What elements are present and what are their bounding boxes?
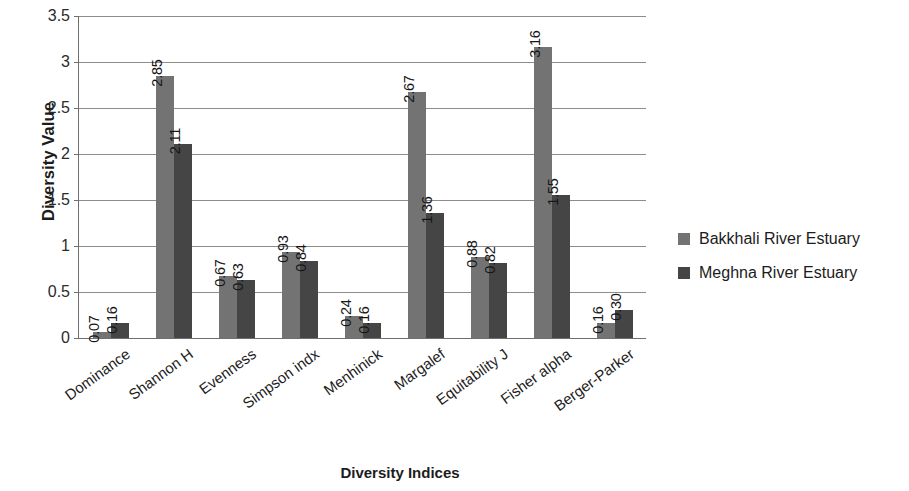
bar-group: 0.930.84 [282, 16, 318, 338]
legend-label: Meghna River Estuary [699, 264, 857, 282]
y-axis-line [78, 16, 79, 338]
legend: Bakkhali River EstuaryMeghna River Estua… [678, 222, 860, 290]
y-axis-tick-label: 0 [61, 329, 70, 347]
bar-value-label: 2.67 [401, 76, 417, 103]
legend-item[interactable]: Bakkhali River Estuary [678, 222, 860, 256]
bar-value-label: 0.07 [86, 315, 102, 342]
y-axis-tick-label: 0.5 [48, 283, 70, 301]
bar-value-label: 1.36 [419, 196, 435, 223]
bar-group: 3.161.55 [534, 16, 570, 338]
bar-value-label: 0.93 [275, 236, 291, 263]
bar-group: 0.670.63 [219, 16, 255, 338]
bar[interactable]: 0.16 [111, 323, 129, 338]
bar-value-label: 2.85 [149, 59, 165, 86]
y-axis-tick [74, 246, 79, 247]
bar-group: 0.880.82 [471, 16, 507, 338]
bar-value-label: 0.16 [104, 307, 120, 334]
bar-value-label: 0.84 [293, 244, 309, 271]
bar-chart: Diversity Value 00.511.522.533.5 0.070.1… [0, 0, 909, 491]
bar-value-label: 0.88 [464, 240, 480, 267]
legend-swatch-icon [678, 233, 690, 245]
plot-area: 00.511.522.533.5 0.070.162.852.110.670.6… [79, 16, 646, 338]
bar-value-label: 1.55 [545, 179, 561, 206]
y-axis-tick-label: 2.5 [48, 99, 70, 117]
bar-value-label: 2.11 [167, 128, 183, 154]
bar-value-label: 0.63 [230, 263, 246, 290]
y-axis-tick [74, 16, 79, 17]
x-axis-category-label-text: Margalef [390, 345, 447, 393]
y-axis-tick [74, 108, 79, 109]
bar[interactable]: 2.85 [156, 76, 174, 338]
y-axis-tick [74, 200, 79, 201]
y-axis-tick [74, 154, 79, 155]
bar-group: 2.852.11 [156, 16, 192, 338]
y-axis-tick-label: 2 [61, 145, 70, 163]
x-axis-title: Diversity Indices [285, 464, 515, 481]
y-axis-tick [74, 338, 79, 339]
bar-value-label: 3.16 [527, 31, 543, 58]
bar-group: 0.240.16 [345, 16, 381, 338]
bar-group: 0.070.16 [93, 16, 129, 338]
y-axis-tick-label: 1 [61, 237, 70, 255]
bar-group: 2.671.36 [408, 16, 444, 338]
x-axis-baseline [79, 338, 646, 339]
x-axis-category-label-text: Dominance [61, 345, 132, 403]
y-axis-tick-label: 3 [61, 53, 70, 71]
legend-swatch-icon [678, 267, 690, 279]
y-axis-tick [74, 292, 79, 293]
y-axis-tick-label: 3.5 [48, 7, 70, 25]
y-axis-tick [74, 62, 79, 63]
bar-value-label: 0.67 [212, 260, 228, 287]
bar-group: 0.160.30 [597, 16, 633, 338]
y-axis-title: Diversity Value [39, 52, 58, 272]
legend-label: Bakkhali River Estuary [699, 230, 860, 248]
bar-value-label: 0.82 [482, 246, 498, 273]
y-axis-tick-label: 1.5 [48, 191, 70, 209]
legend-item[interactable]: Meghna River Estuary [678, 256, 860, 290]
